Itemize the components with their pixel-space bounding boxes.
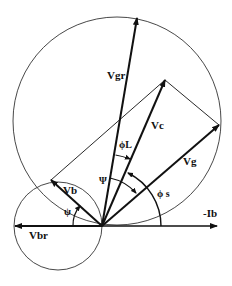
neg-ib-label: -Ib [203, 207, 217, 219]
phi-l-label: ϕL [119, 139, 132, 150]
large-circle [13, 17, 221, 225]
vc-label: Vc [151, 119, 164, 131]
psi-lower-label: ψ [64, 206, 71, 217]
vgr-label: Vgr [107, 69, 125, 81]
vc-vector [102, 80, 165, 226]
psi-upper-label: Ψ [99, 175, 107, 186]
parallelogram-edge-top-left [51, 80, 165, 180]
phi-s-label: ϕ s [157, 188, 170, 199]
phasor-diagram: Vgr Vc Vg Vb Vbr -Ib ϕL ϕ s Ψ ψ [0, 0, 232, 286]
vgr-vector [102, 18, 137, 226]
vg-label: Vg [183, 155, 197, 167]
parallelogram-edge-top-right [165, 80, 219, 125]
phi-l-arc [116, 155, 131, 159]
psi-upper-arc [110, 178, 136, 193]
vb-label: Vb [63, 184, 77, 196]
psi-lower-arc [73, 206, 80, 226]
vbr-label: Vbr [29, 229, 48, 241]
